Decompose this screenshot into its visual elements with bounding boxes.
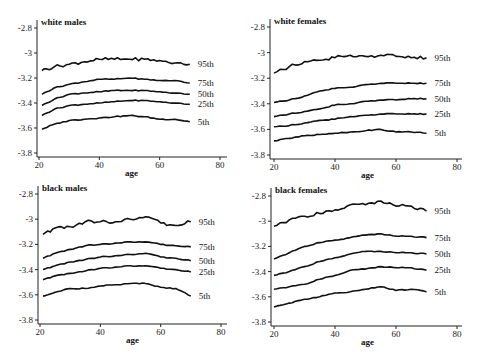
series-label: 25th bbox=[435, 265, 452, 275]
series-label: 75th bbox=[435, 78, 452, 88]
x-tick-label: 20 bbox=[270, 329, 280, 339]
panel-black-males: -2.8-3-3.2-3.4-3.6-3.820406080ageblack m… bbox=[19, 183, 227, 345]
panel-title: black males bbox=[42, 183, 88, 193]
x-tick-label: 40 bbox=[96, 327, 106, 337]
series-label: 75th bbox=[198, 78, 215, 88]
x-tick-label: 40 bbox=[95, 160, 105, 170]
y-tick-label: -3.8 bbox=[251, 150, 266, 160]
x-tick-label: 80 bbox=[453, 162, 463, 172]
y-tick-label: -3.4 bbox=[19, 265, 34, 275]
series-label: 25th bbox=[199, 267, 216, 277]
series-label: 5th bbox=[199, 291, 211, 301]
series-label: 5th bbox=[435, 287, 447, 297]
x-axis-label: age bbox=[126, 335, 139, 345]
series-line-75th bbox=[274, 234, 427, 259]
x-tick-label: 40 bbox=[331, 329, 341, 339]
x-tick-label: 80 bbox=[217, 327, 227, 337]
series-label: 75th bbox=[435, 233, 452, 243]
series-label: 50th bbox=[199, 256, 216, 266]
series-line-95th bbox=[42, 58, 190, 71]
panel-title: white males bbox=[41, 17, 87, 27]
x-axis-label: age bbox=[361, 170, 374, 180]
y-tick-label: -2.8 bbox=[251, 22, 266, 32]
series-label: 50th bbox=[435, 249, 452, 259]
series-label: 5th bbox=[198, 117, 210, 127]
x-tick-label: 40 bbox=[331, 162, 341, 172]
series-line-25th bbox=[274, 267, 427, 290]
series-line-95th bbox=[43, 217, 191, 235]
y-tick-label: -3.4 bbox=[251, 99, 266, 109]
y-tick-label: -3.6 bbox=[251, 124, 266, 134]
y-tick-label: -3 bbox=[25, 48, 33, 58]
y-tick-label: -3.2 bbox=[18, 73, 32, 83]
x-tick-label: 20 bbox=[270, 162, 280, 172]
y-tick-label: -3.8 bbox=[252, 317, 267, 327]
series-label: 50th bbox=[198, 89, 215, 99]
series-label: 75th bbox=[199, 242, 216, 252]
y-tick-label: -3.4 bbox=[252, 267, 267, 277]
series-line-25th bbox=[274, 114, 427, 127]
series-line-25th bbox=[42, 100, 190, 116]
series-label: 5th bbox=[435, 128, 447, 138]
series-line-95th bbox=[274, 201, 427, 226]
x-tick-label: 80 bbox=[453, 329, 463, 339]
panel-white-females: -2.8-3-3.2-3.4-3.6-3.820406080agewhite f… bbox=[251, 16, 462, 180]
series-line-5th bbox=[274, 287, 427, 307]
series-label: 95th bbox=[435, 206, 452, 216]
y-tick-label: -2.8 bbox=[19, 189, 34, 199]
series-label: 25th bbox=[198, 99, 215, 109]
x-tick-label: 20 bbox=[36, 327, 46, 337]
y-tick-label: -3 bbox=[26, 214, 34, 224]
series-line-5th bbox=[43, 283, 191, 296]
y-tick-label: -3.2 bbox=[252, 241, 266, 251]
panel-title: white females bbox=[274, 16, 327, 26]
x-tick-label: 60 bbox=[392, 162, 402, 172]
x-tick-label: 20 bbox=[35, 160, 45, 170]
series-line-25th bbox=[43, 266, 191, 280]
y-tick-label: -3 bbox=[258, 48, 266, 58]
series-label: 95th bbox=[199, 217, 216, 227]
y-tick-label: -3.8 bbox=[19, 315, 34, 325]
x-tick-label: 60 bbox=[155, 160, 165, 170]
y-tick-label: -2.8 bbox=[252, 191, 267, 201]
series-label: 25th bbox=[435, 109, 452, 119]
panel-black-females: -2.8-3-3.2-3.4-3.6-3.820406080ageblack f… bbox=[252, 185, 462, 347]
series-label: 95th bbox=[198, 59, 215, 69]
series-line-50th bbox=[274, 251, 427, 275]
series-line-5th bbox=[42, 115, 190, 129]
series-label: 50th bbox=[435, 94, 452, 104]
x-tick-label: 60 bbox=[392, 329, 402, 339]
y-tick-label: -3.6 bbox=[19, 290, 34, 300]
x-axis-label: age bbox=[125, 168, 138, 178]
series-label: 95th bbox=[435, 53, 452, 63]
percentile-chart-grid: -2.8-3-3.2-3.4-3.6-3.820406080agewhite m… bbox=[0, 0, 478, 358]
y-tick-label: -2.8 bbox=[18, 23, 33, 33]
x-axis-label: age bbox=[361, 337, 374, 347]
series-line-95th bbox=[274, 54, 427, 73]
y-tick-label: -3 bbox=[259, 216, 267, 226]
y-tick-label: -3.6 bbox=[18, 123, 33, 133]
y-tick-label: -3.6 bbox=[252, 292, 267, 302]
panel-white-males: -2.8-3-3.2-3.4-3.6-3.820406080agewhite m… bbox=[18, 17, 227, 178]
series-line-5th bbox=[274, 129, 427, 141]
y-tick-label: -3.2 bbox=[251, 73, 265, 83]
x-tick-label: 60 bbox=[156, 327, 166, 337]
x-tick-label: 80 bbox=[216, 160, 226, 170]
y-tick-label: -3.2 bbox=[19, 239, 33, 249]
y-tick-label: -3.8 bbox=[18, 148, 33, 158]
y-tick-label: -3.4 bbox=[18, 98, 33, 108]
panel-title: black females bbox=[275, 185, 328, 195]
